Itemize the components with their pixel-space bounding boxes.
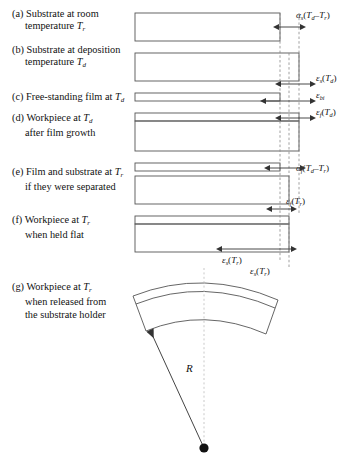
arc-substrate-bottom [146,320,266,334]
bar-film-c [135,93,280,101]
bar-substrate-f [135,224,289,252]
radius-line [150,330,204,448]
curvature-center-dot [199,443,208,452]
bar-film-d [135,113,299,121]
bar-film-e [135,163,280,171]
arc-film-bottom [136,291,275,308]
bar-substrate-e [135,176,289,204]
diagram-vectors [0,0,358,466]
bar-substrate-b [135,53,299,81]
bar-substrate-a [135,13,280,41]
bar-film-f [135,216,289,224]
figure-canvas: (a) Substrate at room temperature Tr (b)… [0,0,358,466]
bar-substrate-d [135,121,299,151]
arc-workpiece-g [133,283,278,334]
